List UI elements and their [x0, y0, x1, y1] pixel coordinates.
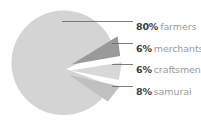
callout-label-samurai: 8%samurai — [136, 82, 191, 98]
callout-label-craftsmen: 6%craftsmen — [136, 60, 201, 76]
callout-percent-samurai: 8% — [136, 86, 152, 97]
callout-percent-farmers: 80% — [136, 21, 158, 32]
callout-category-farmers: farmers — [160, 21, 196, 32]
callout-percent-craftsmen: 6% — [136, 64, 152, 75]
pie-slice-farmers[interactable] — [11, 11, 113, 116]
pie-chart: 80%farmers 6%merchants 6%craftsmen 8%sam… — [0, 0, 201, 131]
callout-category-merchants: merchants — [154, 43, 201, 54]
callout-label-merchants: 6%merchants — [136, 39, 201, 55]
callout-label-farmers: 80%farmers — [136, 17, 196, 33]
callout-percent-merchants: 6% — [136, 43, 152, 54]
callout-category-samurai: samurai — [154, 86, 192, 97]
callout-category-craftsmen: craftsmen — [154, 64, 201, 75]
